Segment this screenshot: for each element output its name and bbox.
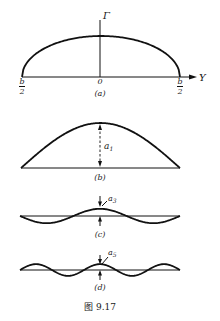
a3-leader-line xyxy=(102,201,107,206)
panel-a: Γ Y 0 b 2 b 2 (a) xyxy=(18,10,207,98)
right-end-denominator: 2 xyxy=(176,87,182,96)
gamma-axis-label: Γ xyxy=(102,10,111,21)
a5-arrow-up-icon xyxy=(98,270,102,276)
a3-label-subscript: 3 xyxy=(113,197,117,204)
a1-label-subscript: 1 xyxy=(109,145,113,152)
left-end-numerator: b xyxy=(19,77,24,86)
a3-label: a3 xyxy=(108,194,117,204)
right-end-numerator: b xyxy=(177,77,182,86)
figure-caption: 图 9.17 xyxy=(84,302,116,312)
origin-label: 0 xyxy=(97,77,102,86)
left-end-label: b 2 xyxy=(18,77,25,96)
elliptic-distribution-curve xyxy=(22,36,180,77)
a5-leader-line xyxy=(102,257,108,264)
a3-arrow-down-icon xyxy=(98,202,102,208)
panel-b: a1 (b) xyxy=(21,123,180,182)
left-end-denominator: 2 xyxy=(18,87,24,96)
y-axis-arrowhead xyxy=(189,75,197,80)
figure: Γ Y 0 b 2 b 2 (a) a1 (b) xyxy=(0,0,220,321)
a1-arrow-up-icon xyxy=(98,124,102,130)
a5-label-subscript: 5 xyxy=(113,251,117,258)
right-end-label: b 2 xyxy=(176,77,183,96)
a3-arrow-up-icon xyxy=(98,216,102,222)
panel-a-label: (a) xyxy=(94,89,105,98)
a1-label: a1 xyxy=(104,141,113,152)
a1-arrow-down-icon xyxy=(98,161,102,167)
panel-c-label: (c) xyxy=(95,230,106,239)
panel-b-label: (b) xyxy=(94,173,105,182)
panel-d: a5 (d) xyxy=(20,248,180,292)
panel-c: a3 (c) xyxy=(20,194,180,239)
y-axis-label: Y xyxy=(199,72,207,83)
a5-label: a5 xyxy=(108,248,117,258)
panel-d-label: (d) xyxy=(94,283,105,292)
